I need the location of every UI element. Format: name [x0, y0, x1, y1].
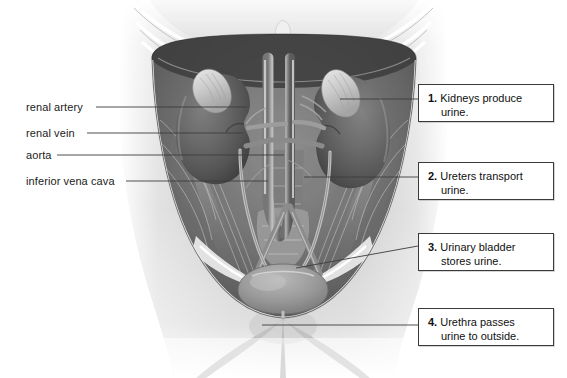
- callout-2-line2: urine.: [428, 183, 545, 197]
- callout-1-line2: urine.: [428, 105, 545, 119]
- callout-4-line2: urine to outside.: [428, 329, 545, 343]
- label-inferior-vena-cava: inferior vena cava: [26, 175, 115, 187]
- label-aorta: aorta: [26, 149, 52, 161]
- callout-4-number: 4.: [428, 316, 437, 328]
- callout-3-line2: stores urine.: [428, 254, 545, 268]
- callout-1-number: 1.: [428, 92, 437, 104]
- callout-3-line1: Urinary bladder: [440, 241, 515, 253]
- label-renal-vein: renal vein: [26, 127, 75, 139]
- callout-2-line1: Ureters transport: [440, 170, 523, 182]
- callout-2-number: 2.: [428, 170, 437, 182]
- label-renal-artery: renal artery: [26, 101, 83, 113]
- callout-4-line1: Urethra passes: [440, 316, 515, 328]
- callout-box-1: 1. Kidneys produce urine.: [418, 84, 554, 122]
- callout-3-number: 3.: [428, 241, 437, 253]
- urinary-bladder: [238, 264, 328, 314]
- callout-1-line1: Kidneys produce: [440, 92, 522, 104]
- callout-box-4: 4. Urethra passes urine to outside.: [418, 308, 554, 346]
- callout-box-2: 2. Ureters transport urine.: [418, 162, 554, 200]
- callout-box-3: 3. Urinary bladder stores urine.: [418, 233, 554, 271]
